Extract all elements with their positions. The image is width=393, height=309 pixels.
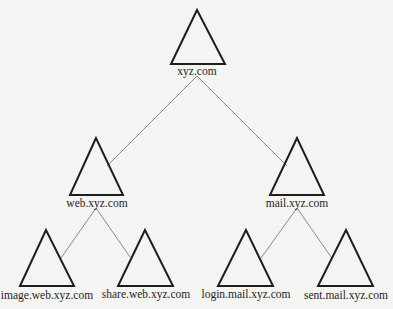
node-image: image.web.xyz.com [1,230,93,302]
node-sent: sent.mail.xyz.com [304,230,388,302]
node-root: xyz.com [171,10,225,78]
node-label: share.web.xyz.com [102,288,191,301]
triangle-icon [20,230,74,286]
edges [61,76,331,258]
domain-tree-diagram: xyz.com web.xyz.com mail.xyz.com image.w… [0,0,393,309]
triangle-icon [270,138,324,195]
node-share: share.web.xyz.com [102,230,191,301]
node-label: web.xyz.com [66,197,127,210]
edge-root-mail [197,76,287,166]
node-label: login.mail.xyz.com [201,288,290,301]
node-label: sent.mail.xyz.com [304,289,388,302]
triangle-icon [318,230,373,286]
node-label: image.web.xyz.com [1,289,93,302]
triangle-icon [118,230,173,286]
edge-mail-sent [297,208,331,257]
node-label: mail.xyz.com [266,197,329,210]
node-login: login.mail.xyz.com [201,230,290,301]
edge-web-image [61,208,96,258]
edge-root-web [107,76,197,166]
triangle-icon [171,10,225,64]
triangle-icon [218,230,273,286]
triangle-icon [70,138,123,195]
node-web: web.xyz.com [66,138,127,210]
node-label: xyz.com [177,65,216,78]
edge-web-share [96,208,130,257]
edge-mail-login [261,208,297,258]
node-mail: mail.xyz.com [266,138,329,210]
